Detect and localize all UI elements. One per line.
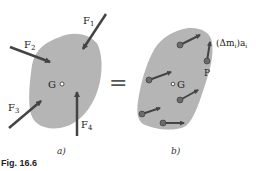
figure-caption: Fig. 16.6 — [1, 158, 37, 168]
center-label-b: G — [177, 79, 185, 90]
force-label-f1: F1 — [83, 15, 94, 28]
center-of-mass-b — [171, 82, 175, 86]
force-label-f2: F2 — [24, 39, 35, 52]
panel-a-label: a) — [57, 146, 66, 156]
force-label-f4: F4 — [81, 119, 93, 132]
panel-b-label: b) — [171, 146, 181, 156]
panel-a: G F1 F2 F3 F4 a) — [8, 14, 106, 156]
center-of-mass-a — [60, 82, 64, 86]
equals-sign: = — [109, 70, 127, 95]
center-label-a: G — [48, 79, 56, 90]
effective-force-label: (Δmi)ai — [216, 38, 247, 49]
rigid-body-a — [29, 34, 101, 129]
figure-canvas: G F1 F2 F3 F4 a) = G P (Δmi)ai b — [0, 0, 256, 171]
panel-b: G P (Δmi)ai b) — [137, 28, 247, 156]
force-label-f3: F3 — [8, 102, 19, 115]
point-label-p: P — [204, 68, 210, 78]
